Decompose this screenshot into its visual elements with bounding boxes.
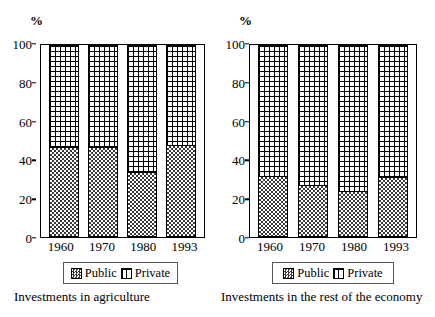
legend-label-private: Private <box>135 267 170 280</box>
bar-segment-public <box>378 177 408 237</box>
x-tick-label: 1993 <box>166 240 202 253</box>
y-tick-label: 60 <box>19 115 32 128</box>
private-swatch-icon <box>121 268 132 279</box>
y-tick-mark <box>32 43 36 44</box>
plot-area-agriculture <box>40 44 205 238</box>
stacked-bar <box>88 45 118 237</box>
bar-segment-public <box>127 172 157 237</box>
x-axis-ticks-left: 1960197019801993 <box>40 240 205 258</box>
y-tick-mark <box>32 121 36 122</box>
bar-group-rest-of-economy <box>250 45 416 237</box>
public-swatch-icon <box>71 268 82 279</box>
y-tick-label: 100 <box>13 38 33 51</box>
stacked-bar <box>378 45 408 237</box>
bar-segment-private <box>338 45 368 191</box>
bar-segment-private <box>127 45 157 172</box>
y-axis-unit-label: % <box>239 14 252 27</box>
caption-rest-of-economy: Investments in the rest of the economy <box>221 290 422 304</box>
bar-segment-public <box>49 147 79 237</box>
y-tick-mark <box>32 198 36 199</box>
y-tick-label: 40 <box>232 154 245 167</box>
legend-label-public: Public <box>85 267 117 280</box>
panel-rest-of-economy: % 100806040200 1960197019801993 Public P… <box>217 0 435 317</box>
bar-segment-private <box>88 45 118 147</box>
x-tick-label: 1960 <box>252 240 288 253</box>
panel-agriculture: % 100806040200 1960197019801993 Public P… <box>0 0 217 317</box>
x-tick-label: 1970 <box>84 240 120 253</box>
bar-segment-public <box>258 176 288 237</box>
y-tick-label: 20 <box>232 193 245 206</box>
legend-entry-private: Private <box>121 267 170 280</box>
caption-agriculture: Investments in agriculture <box>14 290 150 304</box>
y-axis-ticks-left: 100806040200 <box>2 44 36 238</box>
bar-segment-public <box>88 147 118 237</box>
legend-entry-public: Public <box>283 267 329 280</box>
legend-rest-of-economy: Public Private <box>272 262 394 284</box>
y-tick-label: 100 <box>226 38 246 51</box>
stacked-bar <box>166 45 196 237</box>
bar-segment-private <box>258 45 288 176</box>
bar-segment-private <box>166 45 196 145</box>
y-tick-label: 60 <box>232 115 245 128</box>
y-axis-unit-label: % <box>30 14 43 27</box>
y-tick-label: 80 <box>232 76 245 89</box>
y-tick-label: 40 <box>19 154 32 167</box>
x-tick-label: 1960 <box>43 240 79 253</box>
x-axis-ticks-right: 1960197019801993 <box>249 240 417 258</box>
bar-segment-private <box>298 45 328 185</box>
y-tick-mark <box>32 82 36 83</box>
x-tick-label: 1993 <box>378 240 414 253</box>
y-tick-label: 20 <box>19 193 32 206</box>
stacked-bar <box>127 45 157 237</box>
x-tick-label: 1980 <box>336 240 372 253</box>
legend-agriculture: Public Private <box>63 262 178 284</box>
stacked-bar-figure: % 100806040200 1960197019801993 Public P… <box>0 0 435 317</box>
stacked-bar <box>298 45 328 237</box>
legend-entry-public: Public <box>71 267 117 280</box>
bar-segment-public <box>338 191 368 237</box>
bar-segment-public <box>298 185 328 237</box>
stacked-bar <box>338 45 368 237</box>
stacked-bar <box>49 45 79 237</box>
stacked-bar <box>258 45 288 237</box>
y-axis-ticks-right: 100806040200 <box>215 44 249 238</box>
x-tick-label: 1980 <box>125 240 161 253</box>
bar-segment-private <box>378 45 408 177</box>
legend-label-public: Public <box>297 267 329 280</box>
public-swatch-icon <box>283 268 294 279</box>
bar-segment-public <box>166 145 196 237</box>
plot-area-rest-of-economy <box>249 44 417 238</box>
y-tick-mark <box>32 237 36 238</box>
x-tick-label: 1970 <box>294 240 330 253</box>
legend-label-private: Private <box>347 267 382 280</box>
bar-group-agriculture <box>41 45 204 237</box>
bar-segment-private <box>49 45 79 147</box>
y-tick-mark <box>32 160 36 161</box>
private-swatch-icon <box>333 268 344 279</box>
y-tick-label: 80 <box>19 76 32 89</box>
legend-entry-private: Private <box>333 267 382 280</box>
